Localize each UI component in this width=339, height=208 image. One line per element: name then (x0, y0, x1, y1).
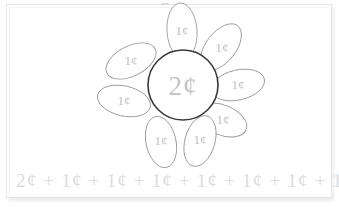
petal-label-right: 1¢ (232, 77, 245, 93)
petal-label-top: 1¢ (176, 23, 189, 39)
petal-label-lower-right: 1¢ (217, 112, 230, 128)
petal-label-upper-left: 1¢ (125, 53, 138, 69)
petal-label-upper-right: 1¢ (216, 40, 229, 56)
petal-label-left: 1¢ (118, 93, 131, 109)
center-coin-label: 2¢ (169, 71, 198, 102)
screenshot-canvas: 1¢ 1¢ 1¢ 1¢ 1¢ 1¢ 1¢ 1¢ 2¢ 2¢ + 1¢ + 1¢ … (0, 0, 339, 208)
petal-label-bottom-right: 1¢ (194, 132, 207, 148)
petal-label-bottom-left: 1¢ (155, 133, 168, 149)
coin-sum-equation: 2¢ + 1¢ + 1¢ + 1¢ + 1¢ + 1¢ + 1¢ + 1¢ + … (16, 168, 326, 194)
